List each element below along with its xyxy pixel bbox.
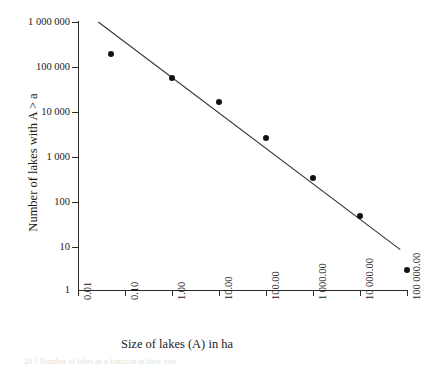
data-point bbox=[169, 75, 175, 81]
x-tick-mark-1000-00 bbox=[313, 290, 314, 296]
y-tick-label-1000000: 1 000 000 bbox=[28, 17, 70, 27]
plot-area bbox=[78, 22, 407, 290]
x-tick-mark-100000-00 bbox=[407, 290, 408, 296]
x-tick-mark-0-10 bbox=[125, 290, 126, 296]
y-axis-title: Number of lakes with A > a bbox=[26, 68, 41, 258]
x-tick-mark-1-00 bbox=[172, 290, 173, 296]
y-tick-label-10000: 10 000 bbox=[41, 107, 70, 117]
x-tick-label-100000-00: 100 000.00 bbox=[411, 253, 422, 300]
x-tick-mark-10-00 bbox=[219, 290, 220, 296]
y-tick-label-100000: 100 000 bbox=[36, 62, 70, 72]
x-tick-mark-0-01 bbox=[78, 290, 79, 296]
x-tick-mark-100-00 bbox=[266, 290, 267, 296]
figure-lake-size-distribution: 1 000 000 100 000 10 000 1 000 100 10 1 … bbox=[0, 0, 426, 368]
y-tick-label-1: 1 bbox=[65, 285, 70, 295]
x-axis-line bbox=[78, 290, 408, 291]
y-tick-label-10: 10 bbox=[60, 242, 71, 252]
data-point bbox=[404, 267, 410, 273]
y-tick-label-1000: 1 000 bbox=[46, 152, 70, 162]
y-tick-label-100: 100 bbox=[54, 197, 70, 207]
figure-caption: 20.5 Number of lakes as a function of th… bbox=[24, 357, 176, 366]
trend-line bbox=[78, 22, 407, 290]
x-axis-title: Size of lakes (A) in ha bbox=[52, 337, 302, 352]
x-tick-mark-10000-00 bbox=[360, 290, 361, 296]
